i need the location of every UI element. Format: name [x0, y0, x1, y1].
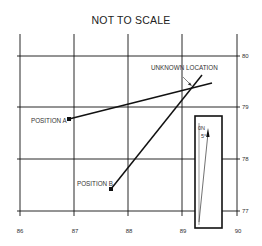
- position-a-marker: [67, 117, 71, 121]
- y-tick-77: 77: [242, 208, 249, 214]
- x-tick-90: 90: [235, 228, 242, 234]
- angle-label: 5°: [201, 133, 206, 139]
- north-label: 0N: [198, 125, 205, 131]
- unknown-location-label: UNKNOWN LOCATION: [151, 64, 218, 71]
- y-tick-79: 79: [242, 104, 249, 110]
- bearing-line-b: [111, 75, 202, 189]
- x-tick-89: 89: [180, 228, 187, 234]
- x-axis-tick-labels: 86 87 88 89 90: [17, 228, 242, 234]
- y-tick-80: 80: [242, 53, 249, 59]
- position-b-label: POSITION B: [77, 180, 113, 187]
- x-tick-87: 87: [72, 228, 79, 234]
- y-axis-tick-labels: 80 79 78 77: [242, 53, 249, 214]
- leader-arrow-icon: [188, 82, 192, 86]
- position-a-label: POSITION A: [31, 117, 67, 124]
- position-b-marker: [109, 187, 113, 191]
- y-tick-78: 78: [242, 156, 249, 162]
- bearing-diagram: 0N 5° UNKNOWN LOCATION POSITION A POSITI…: [0, 0, 262, 246]
- x-tick-88: 88: [126, 228, 133, 234]
- x-tick-86: 86: [17, 228, 24, 234]
